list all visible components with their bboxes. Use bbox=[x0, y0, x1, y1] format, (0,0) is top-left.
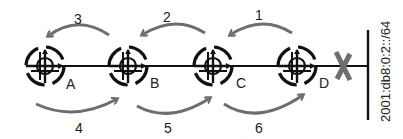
arrow-6 bbox=[224, 95, 303, 113]
arrow-1-label: 1 bbox=[255, 7, 263, 23]
arrow-3-label: 3 bbox=[74, 11, 82, 27]
router-c-icon[interactable] bbox=[194, 47, 232, 85]
router-b-icon[interactable] bbox=[109, 47, 147, 85]
router-d-icon[interactable] bbox=[278, 47, 316, 85]
subnet-label: 2001:db8:0:2::/64 bbox=[378, 21, 393, 122]
arrow-1 bbox=[230, 24, 292, 35]
router-a-icon[interactable] bbox=[26, 47, 64, 85]
router-b-label: B bbox=[150, 75, 159, 91]
arrow-6-label: 6 bbox=[255, 120, 263, 136]
arrow-2-label: 2 bbox=[163, 9, 171, 25]
arrow-5 bbox=[137, 98, 210, 113]
router-a-label: A bbox=[66, 76, 76, 92]
arrow-4-label: 4 bbox=[75, 120, 83, 136]
arrow-2 bbox=[142, 24, 205, 35]
arrow-5-label: 5 bbox=[164, 120, 172, 136]
router-c-label: C bbox=[236, 75, 246, 91]
routing-loop-diagram: 2001:db8:0:2::/64 A B C D 1 2 3 4 5 6 bbox=[0, 0, 403, 139]
router-d-label: D bbox=[319, 75, 329, 91]
arrow-4 bbox=[36, 99, 117, 112]
